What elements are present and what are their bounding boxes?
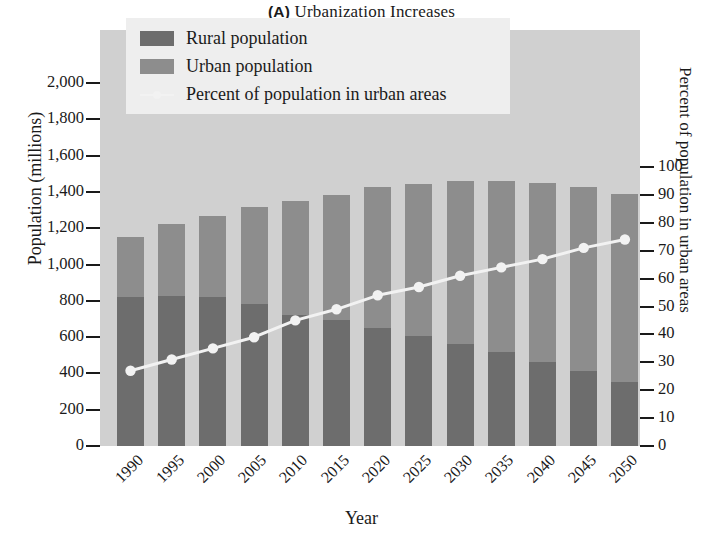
y-axis-left-tick-label: 2,000 bbox=[47, 74, 84, 91]
y-axis-right-tick-label: 40 bbox=[658, 325, 675, 342]
y-axis-left-tick-mark bbox=[86, 155, 100, 157]
y-axis-left-tick-mark bbox=[86, 300, 100, 302]
y-axis-right-tick-mark bbox=[640, 306, 654, 308]
y-axis-right-tick-label: 80 bbox=[658, 214, 675, 231]
y-axis-left-tick-label: 1,400 bbox=[47, 183, 84, 200]
x-axis-tick-label: 2000 bbox=[186, 452, 228, 494]
y-axis-left-tick-mark bbox=[86, 118, 100, 120]
y-axis-left-title: Population (millions) bbox=[25, 59, 46, 319]
x-axis-tick-label: 1990 bbox=[103, 452, 145, 494]
chart-figure: (A) Urbanization Increases Population (m… bbox=[0, 0, 723, 543]
y-axis-left-tick-mark bbox=[86, 445, 100, 447]
chart-legend: Rural populationUrban populationPercent … bbox=[126, 18, 510, 114]
y-axis-right-tick-label: 10 bbox=[658, 409, 675, 426]
x-axis-tick-label: 1995 bbox=[145, 452, 187, 494]
y-axis-left-tick-mark bbox=[86, 82, 100, 84]
x-axis-tick-label: 2030 bbox=[433, 452, 475, 494]
y-axis-left-tick-mark bbox=[86, 409, 100, 411]
y-axis-right-tick-mark bbox=[640, 194, 654, 196]
percent-line-marker bbox=[579, 243, 589, 253]
y-axis-left-tick-label: 600 bbox=[59, 328, 84, 345]
y-axis-right-tick-mark bbox=[640, 333, 654, 335]
y-axis-left-tick-label: 1,800 bbox=[47, 110, 84, 127]
percent-line-marker bbox=[537, 254, 547, 264]
percent-line-marker bbox=[167, 354, 177, 364]
x-axis-tick-label: 2050 bbox=[598, 452, 640, 494]
y-axis-right-tick-mark bbox=[640, 278, 654, 280]
x-axis-tick-label: 2010 bbox=[268, 452, 310, 494]
y-axis-left-tick-mark bbox=[86, 336, 100, 338]
percent-line-marker bbox=[373, 290, 383, 300]
y-axis-left-tick-mark bbox=[86, 191, 100, 193]
y-axis-left-tick-label: 1,600 bbox=[47, 147, 84, 164]
y-axis-left-tick-label: 200 bbox=[59, 401, 84, 418]
y-axis-right-title: Percent of population in urban areas bbox=[675, 25, 695, 355]
y-axis-right-tick-mark bbox=[640, 250, 654, 252]
y-axis-left-tick-label: 1,000 bbox=[47, 256, 84, 273]
x-axis-tick-label: 2045 bbox=[557, 452, 599, 494]
legend-item-label: Urban population bbox=[186, 57, 312, 75]
legend-line-marker-icon bbox=[140, 87, 174, 102]
percent-line-marker bbox=[125, 366, 135, 376]
y-axis-right-tick-label: 100 bbox=[658, 158, 683, 175]
y-axis-right-tick-label: 0 bbox=[658, 437, 666, 454]
x-axis-title: Year bbox=[0, 508, 723, 529]
percent-line-path bbox=[131, 240, 625, 371]
x-axis-tick-label: 2015 bbox=[309, 452, 351, 494]
x-axis-tick-label: 2040 bbox=[515, 452, 557, 494]
x-axis-tick-label: 2035 bbox=[474, 452, 516, 494]
y-axis-right-tick-label: 90 bbox=[658, 186, 675, 203]
legend-item-label: Percent of population in urban areas bbox=[186, 85, 446, 103]
y-axis-right-tick-mark bbox=[640, 389, 654, 391]
y-axis-right-tick-label: 60 bbox=[658, 270, 675, 287]
x-axis-tick-label: 2020 bbox=[351, 452, 393, 494]
y-axis-right-tick-label: 50 bbox=[658, 298, 675, 315]
legend-item-label: Rural population bbox=[186, 29, 307, 47]
y-axis-left-tick-label: 800 bbox=[59, 292, 84, 309]
legend-swatch-icon bbox=[140, 59, 174, 74]
y-axis-right-tick-mark bbox=[640, 166, 654, 168]
legend-item: Percent of population in urban areas bbox=[140, 80, 500, 108]
y-axis-left-tick-label: 400 bbox=[59, 364, 84, 381]
legend-item: Rural population bbox=[140, 24, 500, 52]
y-axis-left-tick-mark bbox=[86, 372, 100, 374]
percent-line-marker bbox=[496, 262, 506, 272]
legend-swatch-icon bbox=[140, 31, 174, 46]
y-axis-right-tick-mark bbox=[640, 445, 654, 447]
percent-line-marker bbox=[331, 304, 341, 314]
y-axis-right-tick-label: 70 bbox=[658, 242, 675, 259]
y-axis-left-tick-mark bbox=[86, 227, 100, 229]
percent-line-marker bbox=[455, 271, 465, 281]
y-axis-left-tick-label: 1,200 bbox=[47, 219, 84, 236]
y-axis-right-tick-label: 20 bbox=[658, 381, 675, 398]
percent-line-marker bbox=[414, 282, 424, 292]
percent-line-marker bbox=[208, 343, 218, 353]
y-axis-right-tick-mark bbox=[640, 361, 654, 363]
y-axis-right-tick-label: 30 bbox=[658, 353, 675, 370]
y-axis-left-tick-mark bbox=[86, 264, 100, 266]
y-axis-left-tick-label: 0 bbox=[76, 437, 84, 454]
x-axis-tick-label: 2005 bbox=[227, 452, 269, 494]
y-axis-right-tick-mark bbox=[640, 222, 654, 224]
percent-line-marker bbox=[290, 315, 300, 325]
legend-item: Urban population bbox=[140, 52, 500, 80]
x-axis-tick-label: 2025 bbox=[392, 452, 434, 494]
percent-line-marker bbox=[249, 332, 259, 342]
y-axis-right-tick-mark bbox=[640, 417, 654, 419]
percent-line-marker bbox=[620, 234, 630, 244]
